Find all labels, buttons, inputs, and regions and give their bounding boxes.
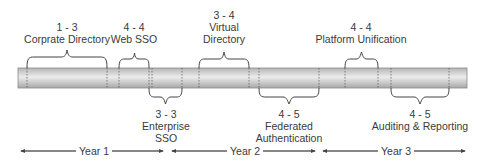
phase-name: Platform Unification xyxy=(315,33,406,45)
phase-virtual-directory: 3 - 4 Virtual Directory xyxy=(203,9,245,45)
phase-range: 3 - 4 xyxy=(203,9,245,21)
brace-federated-authentication xyxy=(259,88,319,104)
phase-name: Auditing & Reporting xyxy=(372,120,468,132)
phase-name-line2: SSO xyxy=(142,132,190,144)
phase-corporate-directory: 1 - 3 Corprate Directory xyxy=(24,21,110,45)
phase-range: 1 - 3 xyxy=(24,21,110,33)
phase-platform-unification: 4 - 4 Platform Unification xyxy=(315,21,406,45)
year-1-label: Year 1 xyxy=(76,145,112,157)
phase-range: 4 - 5 xyxy=(372,108,468,120)
year-3-label: Year 3 xyxy=(378,145,414,157)
phase-name: Corprate Directory xyxy=(24,33,110,45)
brace-corporate-directory xyxy=(27,50,107,68)
phase-range: 3 - 3 xyxy=(142,108,190,120)
phase-range: 4 - 4 xyxy=(111,21,158,33)
phase-range: 4 - 4 xyxy=(315,21,406,33)
phase-name-line2: Authentication xyxy=(256,132,323,144)
phase-web-sso: 4 - 4 Web SSO xyxy=(111,21,158,45)
brace-enterprise-sso xyxy=(149,88,182,104)
phase-name-line2: Directory xyxy=(203,33,245,45)
phase-name: Enterprise xyxy=(142,120,190,132)
brace-web-sso xyxy=(119,53,149,68)
phase-federated-authentication: 4 - 5 Federated Authentication xyxy=(256,108,323,144)
brace-auditing-reporting xyxy=(391,88,449,104)
phase-auditing-reporting: 4 - 5 Auditing & Reporting xyxy=(372,108,468,132)
phase-enterprise-sso: 3 - 3 Enterprise SSO xyxy=(142,108,190,144)
year-2-label: Year 2 xyxy=(227,145,263,157)
timeline-bar xyxy=(18,68,467,88)
brace-virtual-directory xyxy=(199,52,249,68)
phase-name: Web SSO xyxy=(111,33,158,45)
phase-range: 4 - 5 xyxy=(256,108,323,120)
phase-name: Federated xyxy=(256,120,323,132)
brace-platform-unification xyxy=(345,52,378,68)
phase-name: Virtual xyxy=(203,21,245,33)
